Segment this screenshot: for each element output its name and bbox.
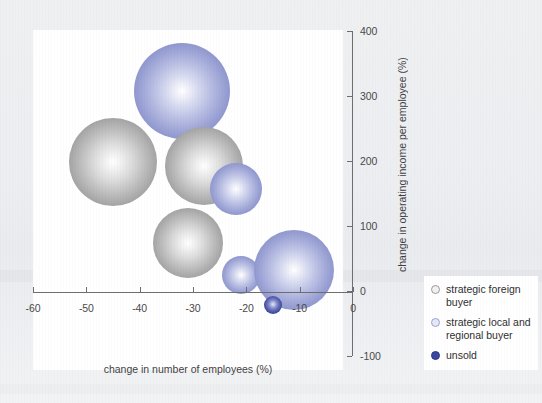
- legend-marker-circle-icon: [431, 351, 440, 360]
- x-tick-label: -50: [79, 302, 94, 314]
- bubble-strategic-local-2[interactable]: [210, 163, 262, 215]
- x-axis-title: change in number of employees (%): [33, 363, 343, 375]
- y-tick-label: 300: [360, 90, 377, 102]
- y-tick-mark: [347, 161, 352, 162]
- legend-marker-circle-icon: [431, 318, 440, 327]
- bubble-unsold-0[interactable]: [264, 296, 282, 314]
- y-tick-label: 200: [360, 155, 377, 167]
- legend: strategic foreign buyer strategic local …: [424, 276, 538, 370]
- y-tick-label: 100: [360, 220, 377, 232]
- legend-item-strategic-foreign-buyer[interactable]: strategic foreign buyer: [431, 283, 532, 308]
- y-tick-mark: [347, 96, 352, 97]
- x-tick-mark: [33, 287, 34, 292]
- background-band-lower: [0, 384, 542, 394]
- figure-container: -60-50-40-30-20-100 4003002001000-100 ch…: [0, 0, 542, 403]
- y-tick-mark: [347, 31, 352, 32]
- y-tick-mark: [347, 226, 352, 227]
- y-tick-mark: [347, 356, 352, 357]
- x-tick-mark: [300, 287, 301, 292]
- bubble-strategic-local-1[interactable]: [134, 43, 230, 139]
- x-axis-line: [33, 292, 353, 293]
- x-tick-mark: [140, 287, 141, 292]
- caption-sliver: [10, 396, 310, 403]
- legend-item-strategic-local-and-regional-buyer[interactable]: strategic local and regional buyer: [431, 316, 532, 341]
- plot-area: [33, 30, 343, 370]
- x-tick-label: -30: [186, 302, 201, 314]
- legend-item-label: unsold: [446, 349, 477, 362]
- legend-item-label: strategic foreign buyer: [446, 283, 532, 308]
- bubble-strategic-foreign-0[interactable]: [69, 118, 157, 206]
- x-tick-label: -20: [239, 302, 254, 314]
- x-tick-mark: [193, 287, 194, 292]
- legend-marker-circle-icon: [431, 285, 440, 294]
- legend-item-unsold[interactable]: unsold: [431, 349, 532, 362]
- x-tick-label: -60: [26, 302, 41, 314]
- y-tick-mark: [347, 291, 352, 292]
- x-tick-label: -10: [292, 302, 307, 314]
- x-tick-mark: [86, 287, 87, 292]
- x-tick-label: 0: [350, 302, 356, 314]
- y-tick-label: 0: [360, 285, 366, 297]
- y-axis-title: change in operating income per employee …: [396, 22, 410, 272]
- x-tick-mark: [353, 287, 354, 292]
- legend-item-label: strategic local and regional buyer: [446, 316, 532, 341]
- x-tick-mark: [246, 287, 247, 292]
- y-tick-label: -100: [360, 350, 381, 362]
- x-tick-label: -40: [132, 302, 147, 314]
- y-tick-label: 400: [360, 25, 377, 37]
- bubble-strategic-foreign-2[interactable]: [153, 208, 223, 278]
